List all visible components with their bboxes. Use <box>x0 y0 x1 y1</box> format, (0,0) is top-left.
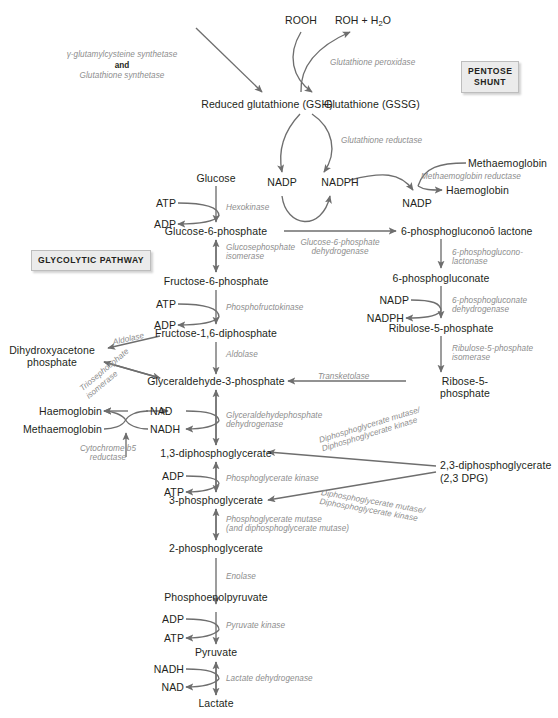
enzyme-cytochrome-b5-reductase: Cytochrome b5reductase <box>66 444 150 463</box>
metabolite-ribose-5-phosphate: Ribose-5-phosphate <box>419 375 512 399</box>
metabolite-nadp-2: NADP <box>402 197 432 209</box>
metabolite-nadp-3: NADP <box>379 294 409 306</box>
enzyme-aldolase-1: Aldolase <box>112 331 145 347</box>
enzyme-aldolase-2: Aldolase <box>226 350 258 359</box>
enzyme-phosphoglycerate-kinase: Phosphoglycerate kinase <box>226 474 319 483</box>
metabolite-atp-1: ATP <box>156 197 176 209</box>
enzyme-6-phosphogluconate-dehydrogenase: 6-phosphogluconatedehydrogenase <box>452 296 527 315</box>
metabolite-23-diphosphoglycerate: 2,3-diphosphoglycerate <box>440 459 551 471</box>
metabolite-dihydroxyacetone-phosphate: Dihydroxyacetone phosphate <box>0 344 104 368</box>
metabolite-methaemoglobin-mid: Methaemoglobin <box>23 423 102 435</box>
pentose-shunt-line2: SHUNT <box>474 77 506 87</box>
metabolite-glyceraldehyde-3-phosphate: Glyceraldehyde-3-phosphate <box>147 375 284 387</box>
metabolite-nadh-1: NADH <box>150 423 180 435</box>
enzyme-pyruvate-kinase: Pyruvate kinase <box>226 621 285 630</box>
metabolite-haemoglobin-mid: Haemoglobin <box>39 405 102 417</box>
metabolite-rooh: ROOH <box>285 14 317 26</box>
metabolite-glutathione-gssg: Glutathione (GSSG) <box>324 98 420 110</box>
pentose-shunt-label: PENTOSE SHUNT <box>461 61 519 93</box>
enzyme-glucosephosphate-isomerase: Glucosephosphateisomerase <box>226 243 295 262</box>
enzyme-glucose-6-phosphate-dehydrogenase: Glucose-6-phosphatedehydrogenase <box>290 238 390 257</box>
metabolite-atp-2: ATP <box>156 298 176 310</box>
metabolite-pyruvate: Pyruvate <box>195 646 237 658</box>
enzyme-glutathione-synthesis: γ-glutamylcysteine synthetase and Glutat… <box>47 50 197 82</box>
glycolytic-pathway-line1: GLYCOLYTIC PATHWAY <box>38 255 144 265</box>
enzyme-conjunction-and: and <box>115 61 130 70</box>
metabolite-nad-1: NAD <box>150 405 172 417</box>
metabolite-nadp-1: NADP <box>267 176 297 188</box>
metabolite-fructose-6-phosphate: Fructose-6-phosphate <box>164 275 269 287</box>
metabolite-adp-4: ADP <box>162 613 184 625</box>
enzyme-enolase: Enolase <box>226 572 256 581</box>
metabolite-methaemoglobin-top: Methaemoglobin <box>468 157 547 169</box>
metabolite-haemoglobin-top: Haemoglobin <box>446 184 509 196</box>
enzyme-phosphoglycerate-mutase: Phosphoglycerate mutase(and diphosphogly… <box>226 515 349 534</box>
metabolite-fructose-16-diphosphate: Fructose-1,6-diphosphate <box>155 327 277 339</box>
metabolite-adp-3: ADP <box>162 470 184 482</box>
metabolite-ribulose-5-phosphate: Ribulose-5-phosphate <box>389 322 494 334</box>
metabolite-glucose-6-phosphate: Glucose-6-phosphate <box>165 225 267 237</box>
enzyme-diphosphoglycerate-mutase-kinase-1: Diphosphoglycerate mutase/Diphosphoglyce… <box>318 405 424 454</box>
metabolite-phosphoenolpyruvate: Phosphoenolpyruvate <box>164 591 267 603</box>
metabolite-3-phosphoglycerate: 3-phosphoglycerate <box>169 494 263 506</box>
figure-caption <box>4 706 556 717</box>
metabolite-nadph-1: NADPH <box>321 176 358 188</box>
pentose-shunt-line1: PENTOSE <box>468 66 512 76</box>
metabolite-glucose: Glucose <box>196 172 235 184</box>
metabolite-13-diphosphoglycerate: 1,3-diphosphoglycerate <box>160 447 271 459</box>
enzyme-methaemoglobin-reductase: Methaemoglobin reductase <box>421 172 521 181</box>
enzyme-6-phosphogluconolactonase: 6-phosphoglucono-lactonase <box>452 248 523 267</box>
pathway-diagram: PENTOSE SHUNT GLYCOLYTIC PATHWAY ROOH RO… <box>0 0 558 718</box>
enzyme-hexokinase: Hexokinase <box>226 203 269 212</box>
enzyme-ribulose-5-phosphate-isomerase: Ribulose-5-phosphateisomerase <box>452 344 533 363</box>
metabolite-atp-4: ATP <box>164 632 184 644</box>
metabolite-2-phosphoglycerate: 2-phosphoglycerate <box>169 542 263 554</box>
metabolite-reduced-glutathione: Reduced glutathione (GSH) <box>201 98 333 110</box>
enzyme-glutathione-synthetase: Glutathione synthetase <box>80 71 165 80</box>
enzyme-glutathione-peroxidase: Glutathione peroxidase <box>330 58 415 67</box>
metabolite-23-dpg: (2,3 DPG) <box>440 472 488 484</box>
enzyme-glyceraldehydephosphate-dehydrogenase: Glyceraldehydephosphatedehydrogenase <box>226 411 322 430</box>
enzyme-lactate-dehydrogenase: Lactate dehydrogenase <box>226 674 313 683</box>
metabolite-nad-2: NAD <box>162 681 184 693</box>
enzyme-phosphofructokinase: Phosphofructokinase <box>226 303 303 312</box>
enzyme-transketolase: Transketolase <box>318 372 369 381</box>
enzyme-gamma-glutamylcysteine-synthetase: γ-glutamylcysteine synthetase <box>67 50 178 59</box>
enzyme-glutathione-reductase: Glutathione reductase <box>341 136 422 145</box>
metabolite-roh-h2o: ROH + H2O <box>335 14 391 30</box>
glycolytic-pathway-label: GLYCOLYTIC PATHWAY <box>31 250 151 271</box>
metabolite-nadh-2: NADH <box>154 663 184 675</box>
metabolite-6-phosphogluconate: 6-phosphogluconate <box>393 272 490 284</box>
metabolite-6-phosphoglucono-lactone: 6-phosphogluconoō lactone <box>401 225 533 237</box>
